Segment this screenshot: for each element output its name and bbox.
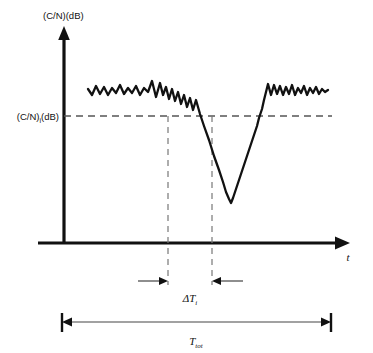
threshold-label-main: (C/N): [17, 111, 40, 122]
figure-container: (C/N)(dB) (C/N)i(dB) t ΔTi Ttot: [0, 0, 373, 353]
delta-t-label-sub: i: [195, 299, 197, 307]
cn-fade-diagram: (C/N)(dB) (C/N)i(dB) t ΔTi Ttot: [0, 0, 373, 353]
total-period-label-sub: tot: [195, 342, 203, 350]
y-axis-label: (C/N)(dB): [43, 10, 84, 21]
delta-t-label-main: ΔT: [182, 292, 196, 304]
threshold-label-tail: (dB): [41, 111, 59, 122]
